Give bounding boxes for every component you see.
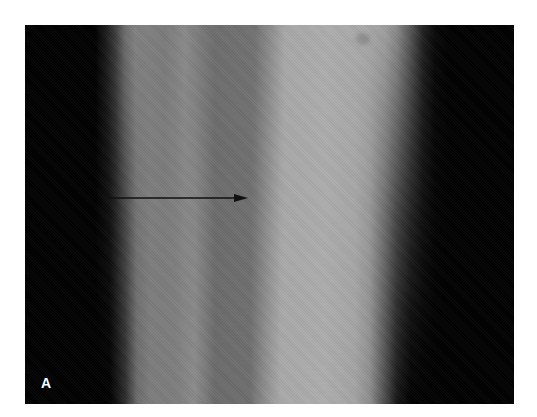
arrow-icon [108,196,248,200]
xray-image-lower [25,25,514,404]
panel-label: A [41,375,51,391]
lesion-spot [356,33,370,45]
xray-figure: A [25,25,514,404]
